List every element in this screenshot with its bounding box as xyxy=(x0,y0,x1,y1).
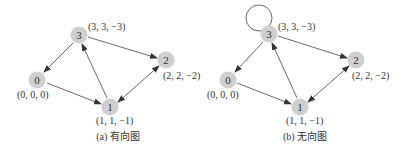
graph-figure: 3 2 0 1 (3, 3, −3) (2, 2, −2) (0, 0, 0) … xyxy=(0,0,404,153)
svg-text:1: 1 xyxy=(297,101,303,113)
coord-node-1: (1, 1, −1) xyxy=(96,115,133,127)
edge-3-2 xyxy=(278,36,347,58)
coord-node-0: (0, 0, 0) xyxy=(207,89,239,101)
edge-3-0 xyxy=(235,42,263,72)
edge-1-3 xyxy=(82,44,107,98)
node-3: 3 xyxy=(71,27,88,44)
edge-3-0 xyxy=(44,43,73,72)
edge-1-2 xyxy=(308,66,349,102)
caption-a: (a) 有向图 xyxy=(96,130,140,143)
graph-b: 3 2 0 1 (3, 3, −3) (2, 2, −2) (0, 0, 0) … xyxy=(207,5,389,143)
svg-text:0: 0 xyxy=(225,74,231,86)
svg-text:2: 2 xyxy=(353,54,359,66)
svg-text:2: 2 xyxy=(163,54,169,66)
edge-1-3 xyxy=(272,43,297,98)
coord-node-3: (3, 3, −3) xyxy=(278,21,315,33)
svg-text:3: 3 xyxy=(266,28,272,40)
coord-node-2: (2, 2, −2) xyxy=(163,70,200,82)
node-2: 2 xyxy=(158,52,175,69)
coord-node-2: (2, 2, −2) xyxy=(352,70,389,82)
node-1: 1 xyxy=(102,99,119,116)
coord-node-1: (1, 1, −1) xyxy=(286,115,323,127)
node-1: 1 xyxy=(292,99,309,116)
node-3: 3 xyxy=(261,26,278,43)
graph-a: 3 2 0 1 (3, 3, −3) (2, 2, −2) (0, 0, 0) … xyxy=(17,21,200,143)
svg-text:0: 0 xyxy=(34,74,40,86)
svg-text:1: 1 xyxy=(107,101,113,113)
node-2: 2 xyxy=(348,52,365,69)
edge-1-2 xyxy=(118,66,159,102)
coord-node-3: (3, 3, −3) xyxy=(88,21,125,33)
edge-0-1 xyxy=(237,83,291,104)
edge-3-2 xyxy=(88,37,157,58)
edge-0-1 xyxy=(47,83,101,104)
coord-node-0: (0, 0, 0) xyxy=(17,89,49,101)
caption-b: (b) 无向图 xyxy=(283,130,327,143)
svg-text:3: 3 xyxy=(76,29,82,41)
node-0: 0 xyxy=(29,72,46,89)
node-0: 0 xyxy=(220,72,237,89)
